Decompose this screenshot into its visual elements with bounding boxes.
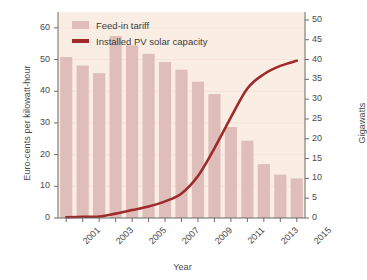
legend-item-feed-in-tariff: Feed-in tariff [72, 18, 207, 32]
bar [225, 127, 237, 218]
bar [110, 36, 122, 218]
y-axis-right-tick-label: 0 [312, 212, 336, 222]
y-axis-right-tick-label: 35 [312, 73, 336, 83]
legend-label-installed-pv-solar-capacity: Installed PV solar capacity [96, 36, 207, 47]
y-axis-left-tick-label: 20 [26, 149, 50, 159]
bar [159, 62, 171, 218]
y-axis-right-tick-label: 5 [312, 192, 336, 202]
legend-line-swatch-icon [72, 39, 89, 43]
chart-legend: Feed-in tariff Installed PV solar capaci… [72, 18, 207, 50]
y-axis-left-tick-label: 10 [26, 180, 50, 190]
bar [241, 141, 253, 218]
legend-bar-swatch-icon [72, 21, 89, 29]
bar [77, 66, 89, 218]
x-axis-title: Year [0, 262, 365, 272]
legend-label-feed-in-tariff: Feed-in tariff [96, 20, 149, 31]
y-axis-right-tick-label: 30 [312, 93, 336, 103]
y-axis-right-tick-label: 20 [312, 133, 336, 143]
bar [192, 82, 204, 218]
y-axis-left-tick-label: 40 [26, 85, 50, 95]
y-axis-right-tick-label: 40 [312, 54, 336, 64]
y-axis-right-tick-label: 50 [312, 14, 336, 24]
bar [274, 175, 286, 218]
y-axis-right-tick-label: 15 [312, 153, 336, 163]
legend-item-installed-pv-solar-capacity: Installed PV solar capacity [72, 34, 207, 48]
y-axis-right-tick-label: 10 [312, 172, 336, 182]
bar [126, 45, 138, 218]
y-axis-right-tick-label: 25 [312, 113, 336, 123]
bar [258, 164, 270, 218]
y-axis-right-tick-label: 45 [312, 34, 336, 44]
y-axis-left-tick-label: 30 [26, 117, 50, 127]
bar [93, 73, 105, 218]
y-axis-left-tick-label: 50 [26, 54, 50, 64]
y-axis-left-tick-label: 0 [26, 212, 50, 222]
bar [142, 54, 154, 218]
y-axis-right-title: Gigawatts [357, 43, 367, 203]
y-axis-left-tick-label: 60 [26, 22, 50, 32]
bar [291, 178, 303, 218]
bar [60, 57, 72, 218]
